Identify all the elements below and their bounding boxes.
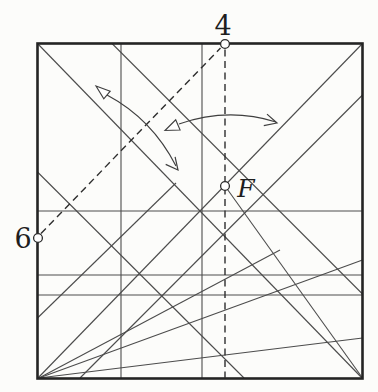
paper-background xyxy=(0,0,378,392)
point-6-label: 6 xyxy=(14,223,31,254)
point-f-label: F xyxy=(236,174,256,203)
point-6-marker xyxy=(34,234,43,243)
crease-pattern-canvas: 46F xyxy=(0,0,378,392)
point-4-label: 4 xyxy=(214,10,231,41)
origami-diagram: 46F xyxy=(0,0,378,392)
point-f-marker xyxy=(221,182,230,191)
